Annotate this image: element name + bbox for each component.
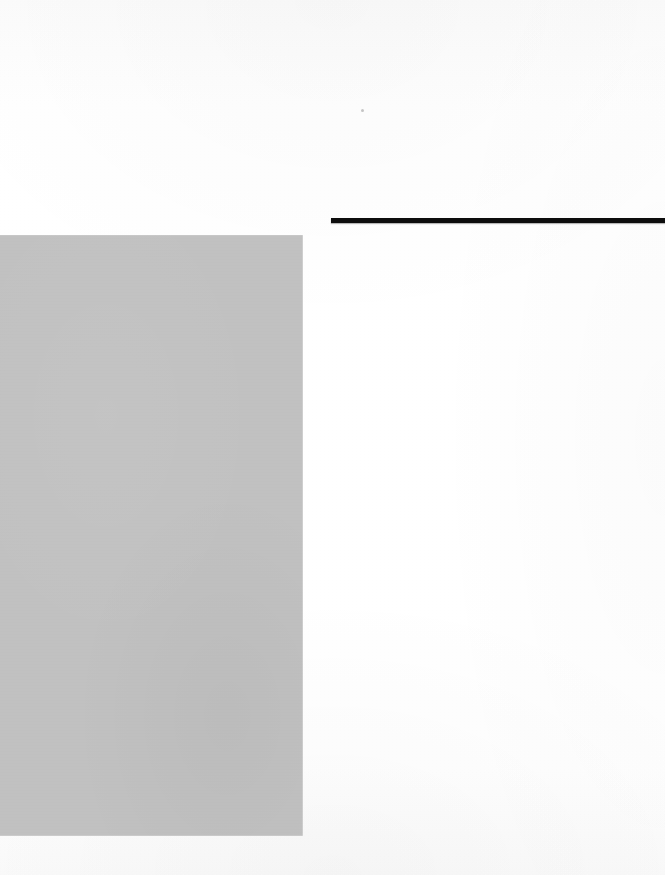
photo-placeholder-edge bbox=[0, 235, 303, 836]
bottom-margin-region bbox=[0, 836, 665, 875]
horizontal-rule bbox=[331, 218, 665, 223]
top-margin-region bbox=[0, 0, 665, 218]
scanned-page bbox=[0, 0, 665, 875]
photo-placeholder bbox=[0, 235, 303, 836]
scan-speck-icon bbox=[361, 109, 364, 112]
right-column-region bbox=[310, 228, 665, 875]
